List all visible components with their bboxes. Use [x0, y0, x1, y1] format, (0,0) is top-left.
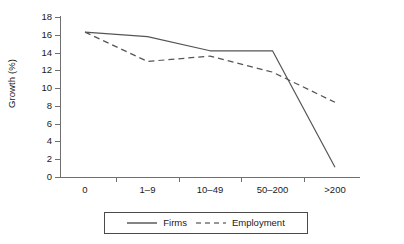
legend-label: Employment [232, 218, 285, 228]
series-line-firms [85, 32, 335, 167]
series-line-employment [85, 32, 335, 102]
chart-legend: FirmsEmployment [104, 212, 308, 234]
legend-item-employment: Employment [196, 218, 285, 228]
legend-swatch-solid-icon [127, 219, 157, 227]
legend-label: Firms [163, 218, 187, 228]
legend-item-firms: Firms [127, 218, 187, 228]
growth-line-chart: Growth (%) 024681012141618 01–910–4950–2… [0, 0, 404, 244]
series-plot [0, 0, 404, 244]
legend-swatch-dashed-icon [196, 219, 226, 227]
